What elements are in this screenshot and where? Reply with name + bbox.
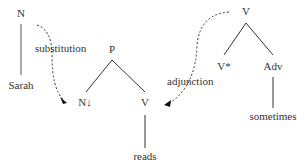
label-substitution: substitution xyxy=(35,42,86,54)
node-adv: Adv xyxy=(264,60,283,72)
substitution-arrow xyxy=(37,25,64,100)
node-v-root: V xyxy=(242,5,250,17)
edge-v-vstar xyxy=(224,23,246,55)
node-n-subst: N↓ xyxy=(78,96,91,108)
node-reads: reads xyxy=(133,150,156,162)
tree-edges xyxy=(0,0,297,166)
substitution-arrowhead xyxy=(60,97,67,104)
adjunction-arrowhead xyxy=(164,100,171,107)
edge-p-n xyxy=(86,60,112,92)
edge-v-adv xyxy=(246,23,273,55)
node-p: P xyxy=(109,43,115,55)
node-sometimes: sometimes xyxy=(249,110,296,122)
node-sarah: Sarah xyxy=(8,79,33,91)
edge-p-v xyxy=(112,60,145,92)
label-adjunction: adjunction xyxy=(167,75,213,87)
node-v-foot: V* xyxy=(217,60,230,72)
node-v: V xyxy=(141,96,149,108)
adjunction-arrow xyxy=(170,12,229,103)
node-n: N xyxy=(17,7,25,19)
